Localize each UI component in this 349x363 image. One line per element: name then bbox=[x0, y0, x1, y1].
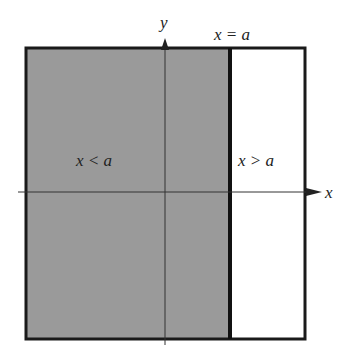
unshaded-region-right bbox=[230, 48, 305, 339]
diagram-canvas: y x x = a x < a x > a bbox=[0, 0, 349, 363]
x-axis-arrow-icon bbox=[306, 188, 322, 196]
shaded-region-left bbox=[26, 48, 230, 339]
x-axis-label: x bbox=[324, 183, 333, 202]
boundary-label: x = a bbox=[213, 25, 250, 44]
y-axis-arrow-icon bbox=[161, 38, 169, 50]
region-label-left: x < a bbox=[75, 151, 112, 170]
y-axis-label: y bbox=[158, 13, 168, 32]
region-label-right: x > a bbox=[237, 151, 274, 170]
